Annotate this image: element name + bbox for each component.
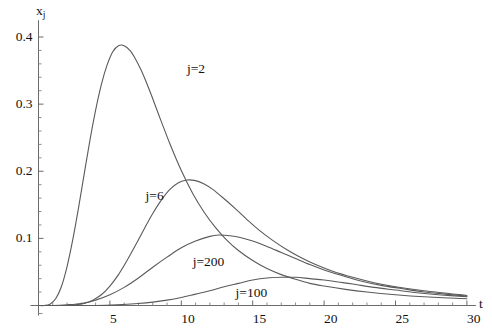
curve-j-2 bbox=[39, 45, 467, 306]
y-tick-label: 0.2 bbox=[5, 164, 33, 178]
y-tick-label: 0.4 bbox=[5, 30, 33, 44]
curve-label-j-200: j=200 bbox=[193, 255, 225, 269]
y-tick-label: 0.1 bbox=[5, 231, 33, 245]
curve-label-j-6: j=6 bbox=[146, 189, 164, 203]
curve-label-j-100: j=100 bbox=[236, 286, 268, 300]
chart-canvas: xj t 510152025300.10.20.30.4 j=2j=6j=200… bbox=[0, 0, 492, 336]
axes-group bbox=[31, 20, 476, 315]
curves-group bbox=[39, 45, 467, 306]
y-axis-label-subscript: j bbox=[43, 10, 46, 20]
y-axis-label: xj bbox=[36, 4, 45, 21]
y-axis-label-base: x bbox=[36, 3, 43, 18]
x-axis-label: t bbox=[479, 297, 483, 311]
curve-label-j-2: j=2 bbox=[187, 62, 205, 76]
y-tick-label: 0.3 bbox=[5, 97, 33, 111]
